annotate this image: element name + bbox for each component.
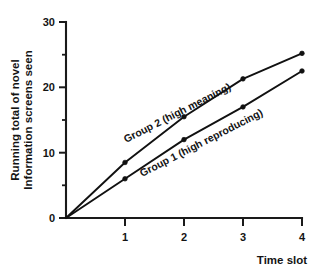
data-point	[241, 77, 246, 82]
x-axis-title: Time slot	[257, 254, 307, 266]
y-axis-title-line-2: Information screens seen	[22, 50, 34, 189]
data-point	[182, 137, 187, 142]
data-point	[300, 69, 305, 74]
chart-background	[0, 0, 321, 273]
y-tick-label-20: 20	[43, 81, 55, 93]
x-tick-label-2: 2	[181, 231, 187, 243]
x-tick-label-4: 4	[299, 231, 306, 243]
y-tick-label-30: 30	[43, 16, 55, 28]
data-point	[123, 160, 128, 165]
y-axis-title-line-1: Running total of novel	[9, 59, 21, 180]
x-tick-label-1: 1	[122, 231, 128, 243]
data-point	[300, 51, 305, 56]
y-tick-label-10: 10	[43, 147, 55, 159]
data-point	[123, 177, 128, 182]
y-tick-label-0: 0	[49, 212, 55, 224]
data-point	[241, 105, 246, 110]
line-chart: 0 10 20 30 1 2 3 4 Time slot Running tot…	[0, 0, 321, 273]
x-tick-label-3: 3	[240, 231, 246, 243]
y-axis-title: Running total of novel Information scree…	[9, 50, 34, 189]
